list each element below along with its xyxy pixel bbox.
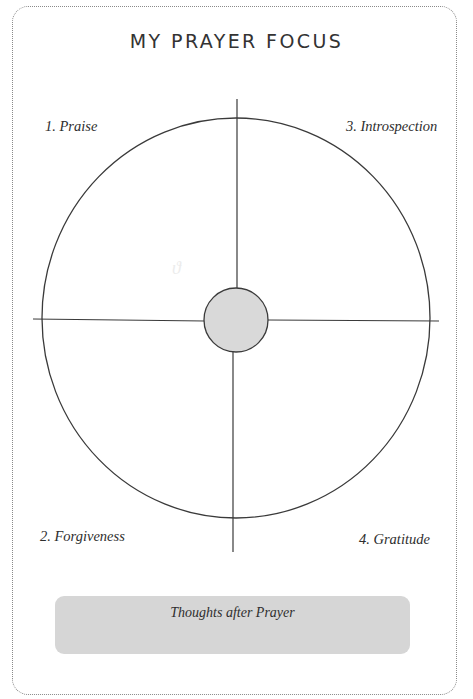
quadrant-label-forgiveness: 2. Forgiveness [40,528,125,544]
prayer-focus-diagram [0,0,473,699]
horizontal-axis-right [268,320,439,321]
quadrant-label-gratitude: 4. Gratitude [359,531,430,547]
horizontal-axis-left [33,319,205,321]
quadrant-label-introspection: 3. Introspection [346,118,437,134]
faint-watermark-mark: ϑ [172,258,181,279]
quadrant-label-praise: 1. Praise [45,118,97,134]
center-circle [204,288,268,352]
thoughts-after-prayer-box[interactable]: Thoughts after Prayer [55,596,410,654]
thoughts-after-prayer-label: Thoughts after Prayer [55,605,410,621]
